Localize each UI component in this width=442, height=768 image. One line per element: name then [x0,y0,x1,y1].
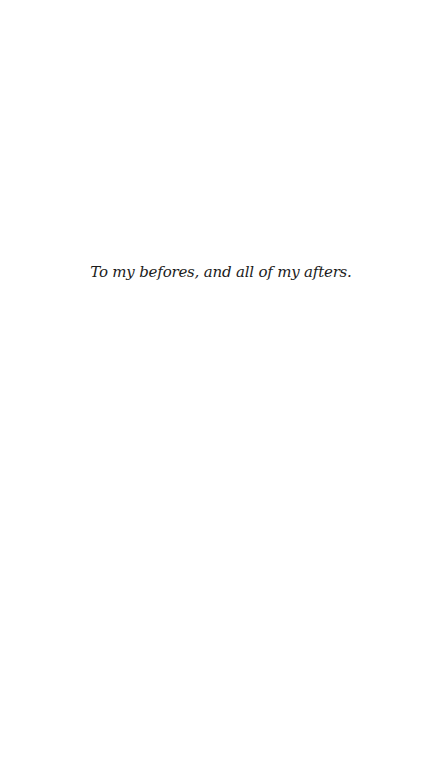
book-page: To my befores, and all of my afters. [0,0,442,768]
dedication-text: To my befores, and all of my afters. [0,262,442,282]
